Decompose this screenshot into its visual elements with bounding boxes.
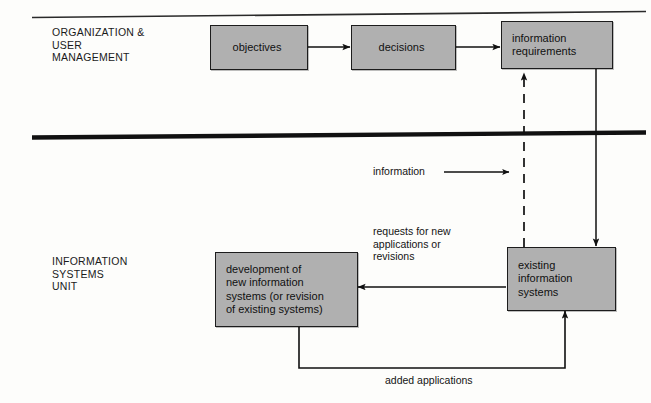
node-existing-information-systems-label: existing information systems xyxy=(508,259,576,299)
node-information-requirements-label: information requirements xyxy=(502,32,580,58)
edge-label-requests-for-new-applications-or-revisions: requests for new applications or revisio… xyxy=(373,225,451,263)
node-development-of-new-information-systems[interactable]: development of new information systems (… xyxy=(215,252,358,327)
diagram-canvas: ORGANIZATION & USER MANAGEMENT INFORMATI… xyxy=(0,0,651,403)
node-information-requirements[interactable]: information requirements xyxy=(501,21,613,69)
node-objectives-label: objectives xyxy=(233,41,286,54)
node-objectives[interactable]: objectives xyxy=(210,25,308,70)
top-rule xyxy=(32,12,646,18)
edge-label-added-applications: added applications xyxy=(385,374,473,387)
band-divider-rule xyxy=(32,133,646,138)
edge-label-information: information xyxy=(373,165,425,178)
node-decisions-label: decisions xyxy=(379,41,429,54)
node-development-label: development of new information systems (… xyxy=(216,263,328,316)
node-decisions[interactable]: decisions xyxy=(351,25,456,70)
band-label-organization-user-management: ORGANIZATION & USER MANAGEMENT xyxy=(52,26,145,64)
band-label-information-systems-unit: INFORMATION SYSTEMS UNIT xyxy=(52,255,127,293)
node-existing-information-systems[interactable]: existing information systems xyxy=(507,247,616,311)
